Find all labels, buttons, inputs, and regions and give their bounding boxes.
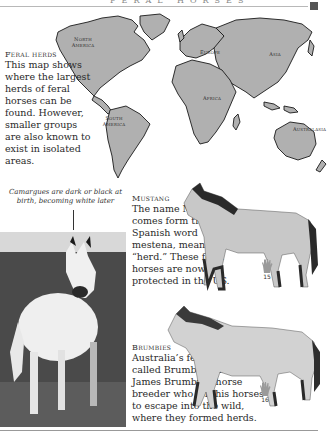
hand-icon [259,381,271,396]
corner-tab-marker [310,2,318,10]
white-horse-illustration [0,232,126,427]
camargue-caption: Camargues are dark or black at birth, be… [8,188,123,206]
caption-leader-line [73,210,74,230]
mustang-horse-illustration [178,175,323,295]
brumbies-height-value: 16 [258,396,272,403]
hand-icon [261,258,273,273]
label-europe: Europe [195,50,225,56]
label-south-america: South America [98,116,130,127]
brumbies-height-badge: 16 [258,381,272,403]
brumby-horse-illustration [162,300,322,410]
header-rule [0,6,308,7]
feral-herds-section: Feral herds This map shows where the lar… [5,50,95,167]
footer-rule [0,430,318,431]
camargue-horse-photo [0,232,126,427]
label-australasia: Australasia [292,127,327,133]
label-asia: Asia [265,52,285,58]
mustang-height-value: 15 [260,273,274,280]
mustang-height-badge: 15 [260,258,274,280]
label-africa: Africa [200,96,224,102]
page-header: FERAL HORSES [110,0,249,5]
feral-herds-title: Feral herds [5,50,95,59]
label-north-america: North America [66,37,100,48]
feral-herds-body: This map shows where the largest herds o… [5,59,95,167]
